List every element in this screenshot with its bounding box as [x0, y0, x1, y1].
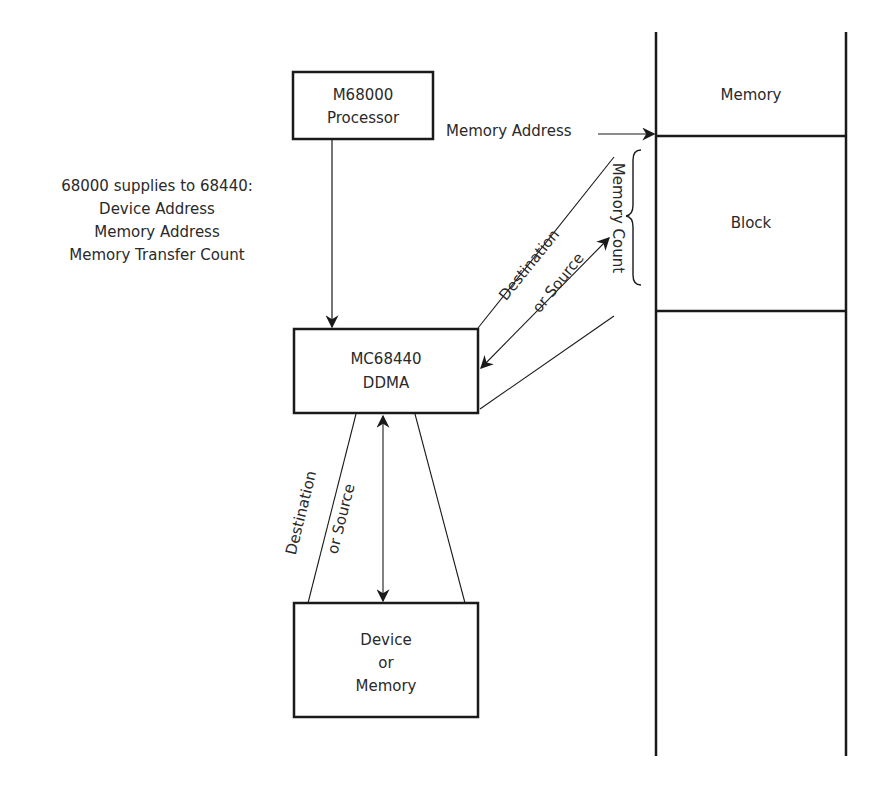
- device-line3: Memory: [355, 677, 416, 695]
- ddma-line1: MC68440: [350, 350, 421, 368]
- lower-funnel-right-line: [415, 414, 465, 603]
- memory-count-label: Memory Count: [609, 163, 627, 273]
- memory-count-bracket: Memory Count: [609, 150, 641, 285]
- memory-label: Memory: [720, 86, 781, 104]
- memory-column: Memory Block: [656, 32, 846, 756]
- supplies-item-transfer-count: Memory Transfer Count: [69, 246, 245, 264]
- processor-line1: M68000: [333, 86, 394, 104]
- upper-transfer-path: Destination or Source: [478, 157, 614, 409]
- supplies-title: 68000 supplies to 68440:: [61, 177, 253, 195]
- device-line1: Device: [360, 631, 411, 649]
- memory-address-label: Memory Address: [446, 122, 572, 140]
- brace-icon: [626, 150, 641, 285]
- supplies-item-memory-address: Memory Address: [94, 223, 220, 241]
- processor-box: M68000 Processor: [293, 72, 433, 139]
- device-box: Device or Memory: [294, 603, 478, 717]
- supplies-item-device-address: Device Address: [99, 200, 215, 218]
- upper-funnel-bottom-line: [480, 316, 614, 409]
- lower-transfer-path: Destination or Source: [282, 414, 465, 603]
- ddma-line2: DDMA: [363, 374, 410, 392]
- lower-destination-label: Destination: [282, 469, 320, 557]
- supplies-note: 68000 supplies to 68440: Device Address …: [61, 177, 253, 264]
- memory-address-arrow: Memory Address: [446, 122, 654, 140]
- ddma-box: MC68440 DDMA: [294, 329, 478, 413]
- processor-line2: Processor: [327, 109, 400, 127]
- dma-diagram: Memory Block M68000 Processor Memory Add…: [0, 0, 895, 799]
- block-label: Block: [731, 214, 772, 232]
- device-line2: or: [378, 654, 394, 672]
